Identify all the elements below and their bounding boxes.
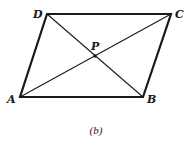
parallelogram-diagram: D C A B P (b) <box>0 0 193 143</box>
vertex-label-d: D <box>32 8 43 21</box>
vertex-label-b: B <box>146 93 156 106</box>
vertex-label-c: C <box>175 8 184 21</box>
intersection-point-p <box>93 54 97 58</box>
vertex-label-a: A <box>6 93 16 106</box>
intersection-label-p: P <box>90 40 100 53</box>
figure-caption: (b) <box>90 124 103 137</box>
